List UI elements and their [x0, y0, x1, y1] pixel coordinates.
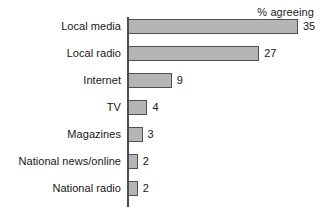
bar-row: Local radio27: [0, 44, 326, 71]
category-label: TV: [107, 98, 121, 126]
bar-row: Magazines3: [0, 125, 326, 152]
bar: [128, 46, 259, 61]
bar-row: National news/online2: [0, 152, 326, 179]
category-label: Magazines: [67, 125, 121, 153]
bar-value-label: 27: [264, 46, 276, 61]
bar: [128, 127, 143, 142]
bar-chart: % agreeing Local media35Local radio27Int…: [0, 0, 326, 220]
plot-area: Local media35Local radio27Internet9TV4Ma…: [0, 17, 326, 208]
category-label: Local media: [61, 17, 121, 45]
bar: [128, 154, 138, 169]
bar-value-label: 3: [148, 127, 154, 142]
bar-group: 9: [128, 73, 183, 88]
bar-row: TV4: [0, 98, 326, 125]
bar-group: 35: [128, 19, 315, 34]
bar: [128, 73, 172, 88]
category-label: National news/online: [18, 152, 121, 180]
bar-group: 2: [128, 154, 149, 169]
bar-value-label: 35: [303, 19, 315, 34]
bar-row: Internet9: [0, 71, 326, 98]
category-label: Internet: [83, 71, 121, 99]
bar-group: 27: [128, 46, 276, 61]
bar-group: 2: [128, 181, 149, 196]
bar-group: 3: [128, 127, 154, 142]
bar-row: National radio2: [0, 179, 326, 206]
bar: [128, 181, 138, 196]
bar-value-label: 9: [177, 73, 183, 88]
bar-value-label: 2: [143, 181, 149, 196]
bar: [128, 100, 147, 115]
category-label: National radio: [52, 179, 121, 207]
bar-rows: Local media35Local radio27Internet9TV4Ma…: [0, 17, 326, 206]
bar-value-label: 4: [152, 100, 158, 115]
bar: [128, 19, 298, 34]
bar-value-label: 2: [143, 154, 149, 169]
bar-row: Local media35: [0, 17, 326, 44]
bar-group: 4: [128, 100, 159, 115]
category-label: Local radio: [67, 44, 121, 72]
